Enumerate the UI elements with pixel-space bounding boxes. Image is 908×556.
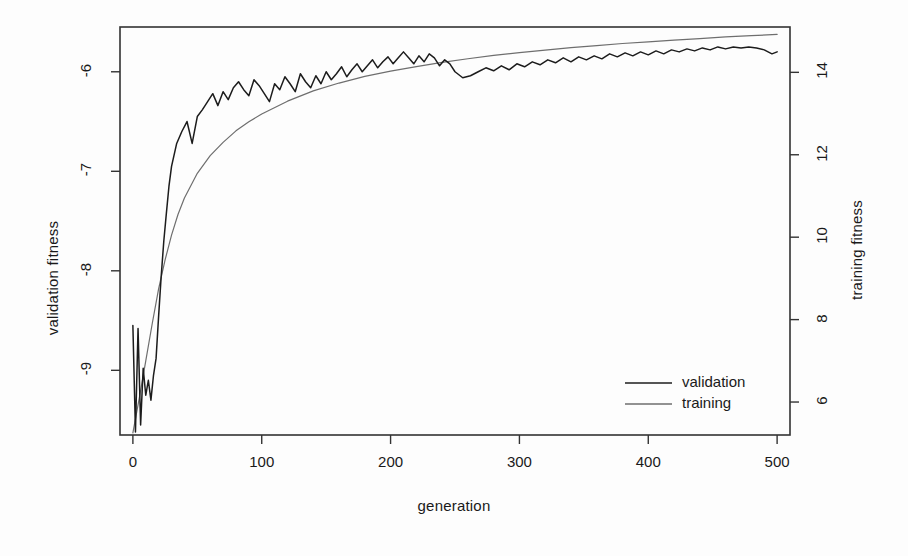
y-left-tick-label: -6 <box>77 55 94 85</box>
y-left-tick-label: -8 <box>77 254 94 284</box>
y-right-tick-label: 8 <box>813 303 830 333</box>
series-line-validation <box>133 47 777 432</box>
x-tick-label: 100 <box>240 453 284 470</box>
y-left-tick-label: -7 <box>77 155 94 185</box>
y-axis-right-title-text: training fitness <box>848 200 865 300</box>
x-tick-label: 400 <box>626 453 670 470</box>
legend-label-training: training <box>682 394 731 411</box>
y-axis-left-title: validation fitness <box>0 0 112 556</box>
chart-canvas: validation fitness training fitness gene… <box>0 0 908 556</box>
y-right-tick-label: 14 <box>813 56 830 86</box>
series-line-training <box>133 34 777 433</box>
plot-area-svg <box>0 0 908 556</box>
legend-label-validation: validation <box>682 373 745 390</box>
y-left-tick-label: -9 <box>77 354 94 384</box>
x-tick-label: 200 <box>369 453 413 470</box>
y-right-tick-label: 12 <box>813 138 830 168</box>
y-right-tick-label: 10 <box>813 221 830 251</box>
x-tick-label: 300 <box>497 453 541 470</box>
x-axis-title-text: generation <box>418 497 491 514</box>
y-axis-right-ticks <box>790 72 799 402</box>
y-axis-left-title-text: validation fitness <box>44 221 61 336</box>
x-tick-label: 0 <box>111 453 155 470</box>
x-tick-label: 500 <box>755 453 799 470</box>
x-axis-ticks <box>133 435 777 444</box>
y-right-tick-label: 6 <box>813 386 830 416</box>
legend-swatches <box>625 383 672 404</box>
y-axis-left-ticks <box>111 72 120 371</box>
data-series-group <box>133 34 777 433</box>
x-axis-title: generation <box>0 497 908 514</box>
